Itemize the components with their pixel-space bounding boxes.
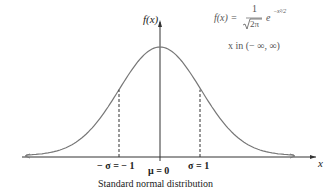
formula-exponent: −x²/2 — [273, 8, 286, 14]
chart: f(x) x f(x) = 1 2π e −x²/2 x in (− ∞, ∞)… — [0, 0, 331, 194]
mu-label: μ = 0 — [148, 165, 169, 176]
formula-denominator: 2π — [250, 19, 259, 29]
formula-exp-base: e — [266, 12, 270, 23]
neg-sigma-label: − σ = − 1 — [97, 160, 135, 171]
pos-sigma-label: σ = 1 — [188, 160, 209, 171]
y-axis-arrow-icon — [158, 20, 162, 27]
x-axis-arrow-icon — [310, 155, 316, 159]
x-axis-label: x — [318, 157, 323, 169]
y-axis-label: f(x) — [143, 13, 158, 25]
domain-note: x in (− ∞, ∞) — [228, 40, 280, 51]
chart-caption: Standard normal distribution — [98, 178, 213, 189]
formula-numerator: 1 — [252, 3, 257, 14]
formula-lhs: f(x) = — [214, 12, 237, 23]
